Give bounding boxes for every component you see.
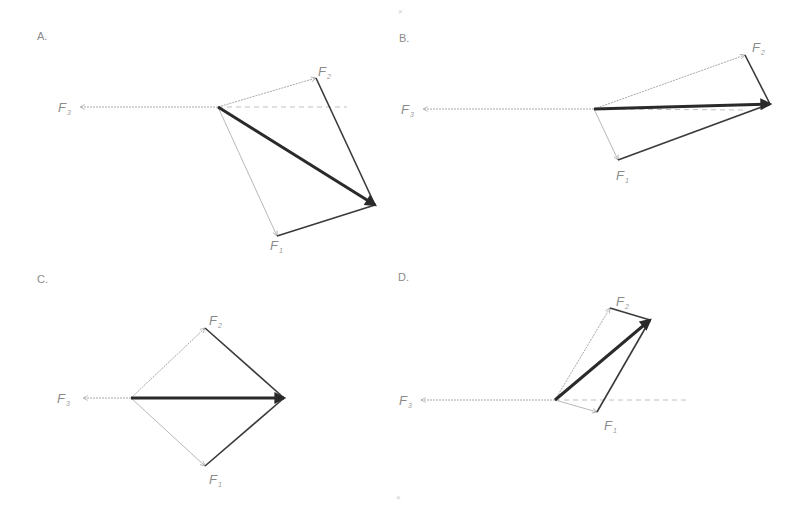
f2-vector	[555, 308, 610, 400]
force-diagrams-canvas: ×× A.F3F2F1B.F3F2F1C.F3F2F1D.F3F2F1	[0, 0, 807, 515]
f2-vector	[218, 78, 316, 107]
f2-label: F2	[616, 294, 629, 310]
panel-label: C.	[37, 273, 48, 285]
parallelogram-side-f2	[205, 328, 284, 398]
f2-label: F2	[752, 40, 765, 56]
f1-label: F1	[270, 238, 283, 254]
panel-c: C.F3F2F1	[37, 273, 284, 488]
f1-label: F1	[209, 472, 222, 488]
top-mark: ×	[398, 7, 403, 16]
parallelogram-side-f1	[597, 320, 650, 412]
panel-label: B.	[399, 32, 409, 44]
diagram-panels: A.F3F2F1B.F3F2F1C.F3F2F1D.F3F2F1	[37, 30, 770, 488]
bottom-mark: ×	[396, 493, 401, 502]
panel-d: D.F3F2F1	[398, 271, 686, 434]
f3-label: F3	[58, 100, 71, 116]
parallelogram-side-f2	[745, 55, 770, 104]
f3-label: F3	[57, 391, 70, 407]
resultant-vector	[594, 104, 770, 109]
panel-a: A.F3F2F1	[37, 30, 375, 254]
f2-vector	[594, 55, 745, 109]
resultant-vector	[555, 320, 650, 400]
panel-label: A.	[37, 30, 47, 42]
panel-label: D.	[398, 271, 409, 283]
f2-label: F2	[318, 64, 331, 80]
f1-vector	[131, 398, 205, 466]
parallelogram-side-f1	[618, 104, 770, 160]
f2-vector	[131, 328, 205, 398]
panel-b: B.F3F2F1	[399, 32, 770, 184]
parallelogram-side-f1	[205, 398, 284, 466]
f3-label: F3	[401, 102, 414, 118]
f1-label: F1	[616, 168, 629, 184]
f1-label: F1	[604, 418, 617, 434]
parallelogram-side-f1	[277, 205, 375, 236]
f3-label: F3	[399, 393, 412, 409]
f1-vector	[594, 109, 618, 160]
f2-label: F2	[209, 313, 222, 329]
page-marks: ××	[396, 7, 403, 502]
parallelogram-side-f2	[610, 308, 650, 320]
f1-vector	[555, 400, 597, 412]
